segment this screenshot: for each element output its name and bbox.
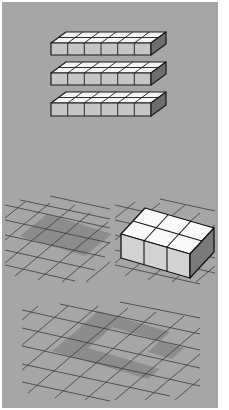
cube-layer-1 [51, 32, 166, 55]
grid-shaded-region [5, 196, 112, 282]
cube-layer-2 [51, 62, 166, 85]
cube-layer-3 [51, 92, 166, 116]
cube-diagram [0, 0, 229, 410]
grid-with-cube-block [115, 199, 215, 284]
grid-x-pattern [22, 302, 200, 401]
